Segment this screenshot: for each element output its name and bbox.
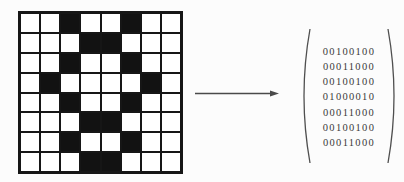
matrix-row: 01000010 bbox=[318, 89, 380, 104]
grid-cell bbox=[80, 93, 100, 113]
grid-cell bbox=[80, 33, 100, 53]
grid-cell bbox=[141, 112, 161, 132]
grid-cell bbox=[161, 33, 181, 53]
grid-cell bbox=[141, 73, 161, 93]
grid-cell bbox=[101, 13, 121, 33]
grid-cell bbox=[20, 53, 40, 73]
grid-cell bbox=[80, 53, 100, 73]
grid-cell bbox=[121, 73, 141, 93]
grid-cell bbox=[161, 13, 181, 33]
grid-cell bbox=[121, 112, 141, 132]
grid-cell bbox=[101, 53, 121, 73]
grid-cell bbox=[121, 33, 141, 53]
grid-cell bbox=[141, 33, 161, 53]
grid-cell bbox=[121, 53, 141, 73]
grid-cell bbox=[60, 112, 80, 132]
grid-cell bbox=[20, 152, 40, 172]
grid-cell bbox=[141, 132, 161, 152]
grid-cell bbox=[161, 112, 181, 132]
grid-cell bbox=[101, 132, 121, 152]
figure-canvas: 0010010000011000001001000100001000011000… bbox=[0, 0, 404, 182]
grid-cell bbox=[121, 152, 141, 172]
matrix-row: 00011000 bbox=[318, 105, 380, 120]
grid-cell bbox=[20, 13, 40, 33]
grid-cell bbox=[80, 13, 100, 33]
grid-cell bbox=[20, 73, 40, 93]
grid-cell bbox=[80, 132, 100, 152]
grid-cell bbox=[40, 132, 60, 152]
grid-cell bbox=[101, 73, 121, 93]
grid-cell bbox=[40, 73, 60, 93]
grid-cell bbox=[161, 93, 181, 113]
grid-cell bbox=[121, 13, 141, 33]
grid-cell bbox=[121, 132, 141, 152]
grid-cell bbox=[40, 53, 60, 73]
grid-cell bbox=[60, 53, 80, 73]
matrix-rows: 0010010000011000001001000100001000011000… bbox=[318, 27, 380, 167]
grid-cell bbox=[60, 73, 80, 93]
grid-cell bbox=[60, 152, 80, 172]
grid-cell bbox=[20, 93, 40, 113]
matrix-row: 00100100 bbox=[318, 74, 380, 89]
grid-cell bbox=[60, 132, 80, 152]
grid-cell bbox=[161, 73, 181, 93]
grid-cell bbox=[60, 93, 80, 113]
binary-matrix: 0010010000011000001001000100001000011000… bbox=[297, 27, 401, 167]
grid-cell bbox=[20, 33, 40, 53]
grid-cell bbox=[80, 152, 100, 172]
grid-cell bbox=[20, 112, 40, 132]
grid-cell bbox=[101, 93, 121, 113]
matrix-row: 00011000 bbox=[318, 59, 380, 74]
grid-cell bbox=[161, 53, 181, 73]
grid-cell bbox=[40, 93, 60, 113]
grid-cell bbox=[40, 33, 60, 53]
matrix-row: 00100100 bbox=[318, 120, 380, 135]
grid-cell bbox=[40, 112, 60, 132]
matrix-row: 00011000 bbox=[318, 135, 380, 150]
grid-cell bbox=[141, 152, 161, 172]
grid-cell bbox=[141, 13, 161, 33]
grid-cell bbox=[141, 93, 161, 113]
pixel-grid bbox=[18, 11, 183, 174]
grid-cell bbox=[101, 112, 121, 132]
left-parenthesis-icon bbox=[297, 27, 311, 165]
grid-cell bbox=[40, 152, 60, 172]
grid-cell bbox=[161, 132, 181, 152]
right-arrow-icon bbox=[194, 88, 280, 99]
grid-cell bbox=[60, 33, 80, 53]
grid-cell bbox=[141, 53, 161, 73]
grid-cell bbox=[121, 93, 141, 113]
grid-cell bbox=[20, 132, 40, 152]
grid-cell bbox=[101, 152, 121, 172]
grid-cell bbox=[40, 13, 60, 33]
grid-cell bbox=[60, 13, 80, 33]
grid-cell bbox=[101, 33, 121, 53]
matrix-row: 00100100 bbox=[318, 44, 380, 59]
grid-cell bbox=[80, 73, 100, 93]
grid-cell bbox=[80, 112, 100, 132]
right-parenthesis-icon bbox=[387, 27, 401, 165]
grid-cell bbox=[161, 152, 181, 172]
